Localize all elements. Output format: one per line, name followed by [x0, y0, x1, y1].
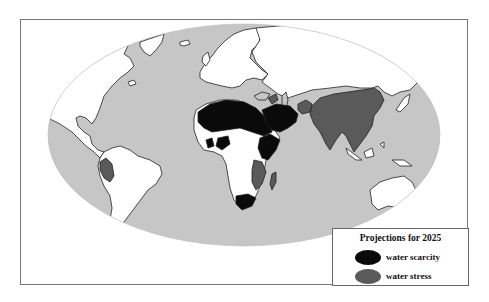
- water-stress-swatch: [355, 269, 381, 284]
- legend-label: water scarcity: [386, 252, 440, 262]
- legend-title: Projections for 2025: [333, 233, 468, 243]
- legend: Projections for 2025 water scarcity wate…: [332, 228, 469, 286]
- water-scarcity-swatch: [355, 250, 381, 265]
- legend-label: water stress: [386, 271, 431, 281]
- legend-item-water-stress: water stress: [355, 268, 431, 284]
- legend-item-water-scarcity: water scarcity: [355, 249, 440, 265]
